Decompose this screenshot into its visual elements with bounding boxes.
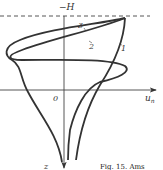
label-horizontal-axis: un [145,93,155,104]
label-curve-3: 3 [78,21,83,30]
label-curve-1: 1 [121,44,126,53]
label-curve-2: 2 [88,42,94,51]
label-bottom-z: z [43,162,49,170]
label-origin: 0 [53,94,58,103]
velocity-profile-diagram: −H 3 2 1 0 un z Fig. 15. Ams [0,0,163,170]
curve-2 [10,18,126,160]
curve-1 [76,18,125,160]
figure-caption: Fig. 15. Ams [100,163,145,170]
label-top-minus-h: −H [59,2,75,12]
